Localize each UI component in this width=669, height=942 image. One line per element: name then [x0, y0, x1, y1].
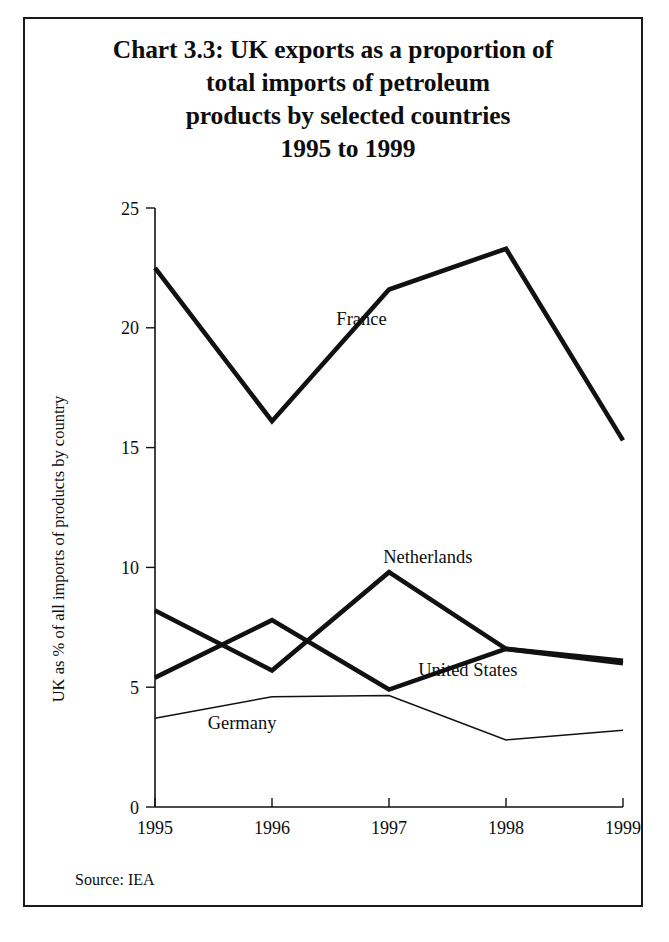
series-label-netherlands: Netherlands: [383, 547, 472, 567]
data-series-group: [155, 249, 623, 740]
y-tick-label: 10: [121, 558, 139, 578]
plot-area: UK as % of all imports of products by co…: [25, 19, 641, 905]
x-tick-label: 1998: [488, 818, 524, 838]
y-tick-label: 5: [130, 678, 139, 698]
y-axis-title: UK as % of all imports of products by co…: [49, 369, 69, 729]
x-axis-ticks: 19951996199719981999: [137, 798, 641, 838]
y-tick-label: 25: [121, 199, 139, 219]
x-tick-label: 1995: [137, 818, 173, 838]
y-axis-ticks: 0510152025: [121, 199, 155, 818]
line-chart-canvas: 0510152025 19951996199719981999 FranceNe…: [25, 19, 641, 905]
chart-figure: Chart 3.3: UK exports as a proportion of…: [23, 17, 643, 907]
series-label-france: France: [336, 309, 386, 329]
series-label-germany: Germany: [208, 713, 278, 733]
series-label-group: FranceNetherlandsUnited StatesGermany: [208, 309, 518, 733]
series-line-united-states: [155, 620, 623, 689]
series-label-united-states: United States: [418, 660, 517, 680]
source-note: Source: IEA: [75, 871, 155, 889]
x-tick-label: 1997: [371, 818, 407, 838]
x-tick-label: 1996: [254, 818, 290, 838]
series-line-france: [155, 249, 623, 441]
y-tick-label: 15: [121, 438, 139, 458]
y-tick-label: 20: [121, 318, 139, 338]
x-tick-label: 1999: [605, 818, 641, 838]
y-tick-label: 0: [130, 798, 139, 818]
